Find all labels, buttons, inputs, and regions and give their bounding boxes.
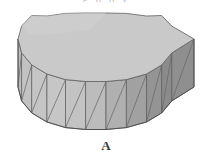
cylinder-figure bbox=[0, 0, 212, 161]
figure-label: A bbox=[0, 138, 212, 154]
figure-canvas: g p p y bbox=[0, 0, 212, 161]
